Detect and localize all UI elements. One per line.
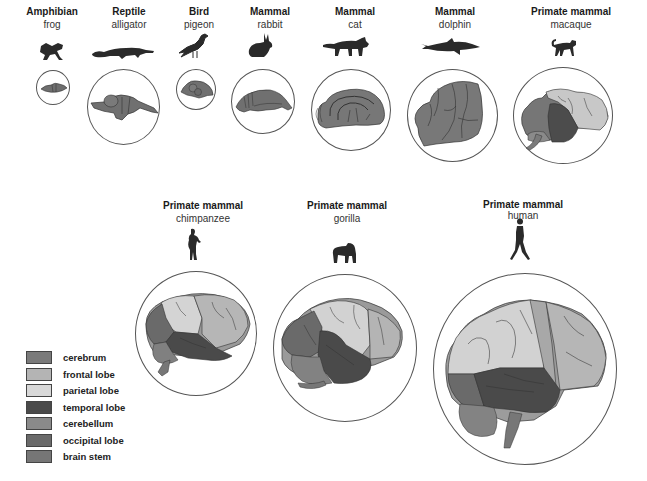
legend-label: frontal lobe [63, 369, 115, 380]
class-label: Primate mammal [526, 6, 616, 18]
swatch-brain-stem [26, 450, 52, 463]
cat-icon [322, 34, 372, 58]
frog-icon [38, 40, 66, 62]
human-icon [508, 218, 532, 262]
label-rabbit: Mammal rabbit [240, 6, 300, 31]
class-label: Primate mammal [158, 200, 248, 212]
brain-frog [36, 70, 70, 105]
class-label: Mammal [425, 6, 485, 18]
alligator-icon [90, 44, 156, 60]
species-label: gorilla [302, 212, 392, 225]
label-dolphin: Mammal dolphin [425, 6, 485, 31]
gorilla-icon [330, 242, 358, 264]
species-label: pigeon [174, 18, 224, 31]
swatch-frontal-lobe [26, 368, 52, 381]
species-label: frog [22, 18, 82, 31]
brain-dolphin [407, 69, 498, 162]
class-label: Mammal [325, 6, 385, 18]
legend-label: temporal lobe [63, 402, 125, 413]
brain-pigeon [176, 69, 216, 110]
pigeon-icon [177, 32, 209, 60]
species-label: macaque [526, 18, 616, 31]
label-gorilla: Primate mammal gorilla [302, 200, 392, 225]
label-frog: Amphibian frog [22, 6, 82, 31]
legend-label: occipital lobe [63, 435, 124, 446]
species-label: chimpanzee [158, 212, 248, 225]
brain-alligator [87, 69, 160, 145]
class-label: Amphibian [22, 6, 82, 18]
swatch-parietal-lobe [26, 384, 52, 397]
legend-label: cerebrum [63, 352, 106, 363]
label-alligator: Reptile alligator [99, 6, 159, 31]
class-label: Primate mammal [478, 199, 568, 210]
legend-label: brain stem [63, 451, 111, 462]
brain-human [433, 273, 617, 465]
macaque-icon [548, 36, 578, 58]
swatch-cerebrum [26, 351, 52, 364]
class-label: Reptile [99, 6, 159, 18]
swatch-cerebellum [26, 417, 52, 430]
species-label: dolphin [425, 18, 485, 31]
rabbit-icon [246, 32, 276, 60]
legend-label: cerebellum [63, 418, 113, 429]
label-chimpanzee: Primate mammal chimpanzee [158, 200, 248, 225]
dolphin-icon [420, 37, 482, 57]
class-label: Primate mammal [302, 200, 392, 212]
label-cat: Mammal cat [325, 6, 385, 31]
chimpanzee-icon [186, 228, 202, 262]
label-macaque: Primate mammal macaque [526, 6, 616, 31]
brain-macaque [513, 67, 613, 164]
brain-cat [311, 69, 391, 151]
class-label: Bird [174, 6, 224, 18]
species-label: rabbit [240, 18, 300, 31]
brain-rabbit [231, 69, 295, 134]
swatch-temporal-lobe [26, 401, 52, 414]
swatch-occipital-lobe [26, 434, 52, 447]
brain-gorilla [273, 274, 417, 422]
species-label: alligator [99, 18, 159, 31]
class-label: Mammal [240, 6, 300, 18]
label-pigeon: Bird pigeon [174, 6, 224, 31]
legend-label: parietal lobe [63, 385, 119, 396]
species-label: cat [325, 18, 385, 31]
brain-chimpanzee [135, 271, 257, 396]
